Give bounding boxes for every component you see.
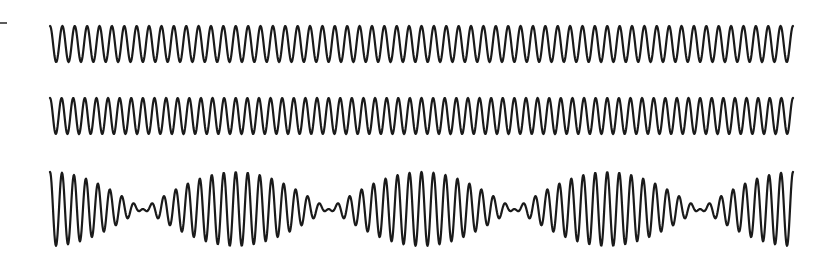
wave-2-sinusoid <box>50 98 793 134</box>
beat-diagram <box>0 0 832 268</box>
wave-sum-beats <box>50 172 793 246</box>
wave-1-sinusoid <box>50 26 793 62</box>
